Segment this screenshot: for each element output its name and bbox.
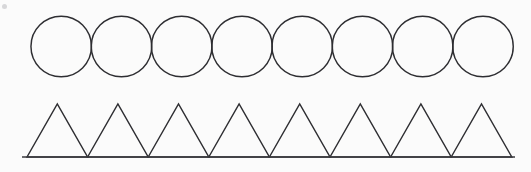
figure-background bbox=[0, 0, 531, 172]
speck-top-left bbox=[2, 4, 7, 9]
figure-canvas bbox=[0, 0, 531, 172]
shape-diagram bbox=[0, 0, 531, 172]
scan-artifact-layer bbox=[2, 4, 7, 9]
